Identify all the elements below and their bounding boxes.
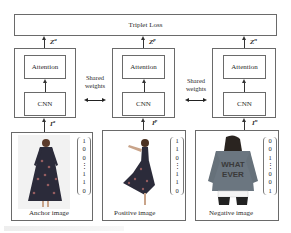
anchor-input-arrow-line (44, 121, 45, 132)
positive-image (111, 135, 161, 207)
shared-weights-double-arrow-icon-1 (86, 100, 104, 101)
negative-inner-arrowhead-icon (242, 79, 246, 83)
positive-image-box: 110⋮110 Positive image (102, 130, 186, 221)
anchor-image-box: 100⋮110 Anchor image (11, 132, 93, 221)
positive-input-arrowhead-icon (141, 118, 145, 122)
positive-input-arrow-line (143, 121, 144, 130)
anchor-encoder-box: Attention CNN (14, 48, 76, 118)
jacket-text-2: EVER (222, 170, 244, 179)
shared-weights-label-1: Sharedweights (78, 74, 112, 90)
anchor-output-arrow-line (44, 39, 45, 48)
negative-image-box: WHAT EVER 001⋮001 Negative image (195, 130, 279, 221)
anchor-output-var: Za (50, 37, 57, 46)
anchor-image (18, 135, 70, 209)
jacket-text-1: WHAT (221, 160, 245, 169)
figure-caption-remnant (4, 226, 124, 231)
positive-input-var: Ip (152, 118, 157, 127)
negative-image-caption: Negative image (209, 209, 253, 217)
shared-weights-label-2: Sharedweights (179, 77, 213, 93)
negative-label-vector: 001⋮001 (263, 137, 277, 195)
negative-output-var: Zn (250, 37, 257, 46)
positive-output-var: Zp (149, 37, 156, 46)
positive-attention-block: Attention (122, 55, 165, 79)
negative-encoder-box: Attention CNN (212, 48, 276, 118)
negative-input-var: In (252, 118, 258, 127)
negative-input-arrowhead-icon (242, 118, 246, 122)
anchor-inner-arrowhead-icon (43, 79, 47, 83)
negative-attention-block: Attention (223, 55, 266, 79)
positive-cnn-block: CNN (122, 92, 165, 116)
anchor-input-arrowhead-icon (42, 118, 46, 122)
triplet-loss-box: Triplet Loss (14, 14, 277, 36)
anchor-image-caption: Anchor image (29, 209, 69, 217)
negative-output-arrowhead-icon (242, 36, 246, 40)
negative-output-arrow-line (244, 39, 245, 48)
anchor-output-arrowhead-icon (42, 36, 46, 40)
anchor-label-vector: 100⋮110 (77, 137, 91, 195)
positive-image-caption: Positive image (114, 209, 155, 217)
positive-inner-arrowhead-icon (142, 79, 146, 83)
anchor-attention-block: Attention (24, 55, 66, 79)
negative-image: WHAT EVER (204, 135, 260, 207)
anchor-cnn-block: CNN (24, 92, 66, 116)
positive-label-vector: 110⋮110 (170, 137, 184, 195)
triplet-loss-label: Triplet Loss (15, 21, 276, 29)
positive-encoder-box: Attention CNN (112, 48, 175, 118)
negative-input-arrow-line (244, 121, 245, 130)
positive-output-arrowhead-icon (141, 36, 145, 40)
anchor-input-var: Ia (50, 119, 55, 128)
negative-cnn-block: CNN (223, 92, 266, 116)
positive-output-arrow-line (143, 39, 144, 48)
shared-weights-double-arrow-icon-2 (187, 100, 205, 101)
